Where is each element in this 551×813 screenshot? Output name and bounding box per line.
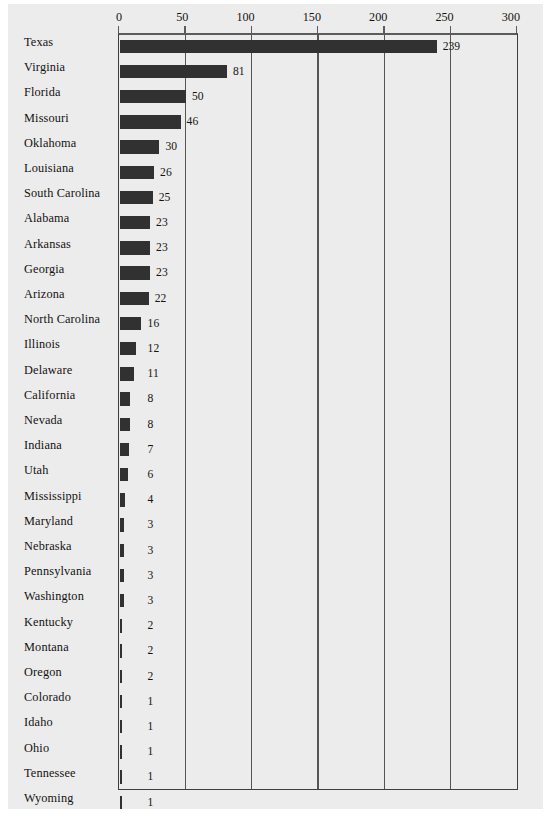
bar-row[interactable]: 6 xyxy=(120,462,518,487)
axis-tick-label: 200 xyxy=(369,10,389,25)
category-label: Alabama xyxy=(24,206,69,231)
category-label: Delaware xyxy=(24,358,72,383)
bar[interactable] xyxy=(120,518,124,531)
bar-row[interactable]: 16 xyxy=(120,311,518,336)
bar-row[interactable]: 26 xyxy=(120,160,518,185)
category-label: Maryland xyxy=(24,509,73,534)
bar-row[interactable]: 4 xyxy=(120,488,518,513)
bar-row[interactable]: 22 xyxy=(120,286,518,311)
bar-row[interactable]: 81 xyxy=(120,59,518,84)
bar-row[interactable]: 1 xyxy=(120,740,518,765)
category-label: Texas xyxy=(24,30,53,55)
bar-value-label: 16 xyxy=(148,316,160,332)
bar[interactable] xyxy=(120,745,122,758)
bar-value-label: 2 xyxy=(148,643,154,659)
bar-value-label: 26 xyxy=(160,165,172,181)
bar-row[interactable]: 1 xyxy=(120,765,518,790)
bar-row[interactable]: 7 xyxy=(120,437,518,462)
bar[interactable] xyxy=(120,216,151,229)
category-label: Virginia xyxy=(24,55,65,80)
bar[interactable] xyxy=(120,191,153,204)
bar[interactable] xyxy=(120,392,131,405)
bar-value-label: 12 xyxy=(148,341,160,357)
bar-row[interactable]: 3 xyxy=(120,588,518,613)
category-label: Utah xyxy=(24,458,49,483)
bar[interactable] xyxy=(120,770,122,783)
bar[interactable] xyxy=(120,266,151,279)
bar-value-label: 3 xyxy=(148,517,154,533)
bar-row[interactable]: 2 xyxy=(120,639,518,664)
bar[interactable] xyxy=(120,443,129,456)
category-label: Kentucky xyxy=(24,610,73,635)
axis-tick xyxy=(516,26,517,34)
bar-row[interactable]: 23 xyxy=(120,236,518,261)
axis-tick xyxy=(383,26,384,34)
bar[interactable] xyxy=(120,166,154,179)
bar[interactable] xyxy=(120,115,181,128)
bar[interactable] xyxy=(120,342,136,355)
bar-row[interactable]: 2 xyxy=(120,614,518,639)
axis-tick-label: 100 xyxy=(236,10,256,25)
bars-layer: 2398150463026252323232216121188764333322… xyxy=(120,34,518,790)
bar[interactable] xyxy=(120,65,227,78)
category-label: Louisiana xyxy=(24,156,74,181)
bar[interactable] xyxy=(120,40,437,53)
bar-row[interactable]: 3 xyxy=(120,513,518,538)
bar[interactable] xyxy=(120,720,122,733)
category-label: Ohio xyxy=(24,736,49,761)
category-label: Washington xyxy=(24,584,84,609)
bar[interactable] xyxy=(120,670,123,683)
bar-row[interactable]: 3 xyxy=(120,563,518,588)
category-label: Arkansas xyxy=(24,232,71,257)
axis-tick xyxy=(450,26,451,34)
bar-value-label: 3 xyxy=(148,543,154,559)
bar-row[interactable]: 1 xyxy=(120,790,518,813)
axis-tick-label: 50 xyxy=(176,10,190,25)
category-label: Mississippi xyxy=(24,484,82,509)
bar-row[interactable]: 11 xyxy=(120,362,518,387)
bar-value-label: 22 xyxy=(155,291,167,307)
bar[interactable] xyxy=(120,569,124,582)
category-label: Georgia xyxy=(24,257,64,282)
bar[interactable] xyxy=(120,317,141,330)
bar-row[interactable]: 23 xyxy=(120,261,518,286)
bar-row[interactable]: 3 xyxy=(120,538,518,563)
bar[interactable] xyxy=(120,292,149,305)
bar[interactable] xyxy=(120,493,125,506)
bar-value-label: 25 xyxy=(159,190,171,206)
bar[interactable] xyxy=(120,544,124,557)
axis-tick-label: 250 xyxy=(435,10,455,25)
bar-row[interactable]: 46 xyxy=(120,110,518,135)
category-label: Indiana xyxy=(24,433,62,458)
axis-tick-label: 150 xyxy=(303,10,323,25)
bar-row[interactable]: 8 xyxy=(120,387,518,412)
bar[interactable] xyxy=(120,140,160,153)
bar-row[interactable]: 8 xyxy=(120,412,518,437)
bar[interactable] xyxy=(120,594,124,607)
bar[interactable] xyxy=(120,796,122,809)
bar-row[interactable]: 1 xyxy=(120,689,518,714)
bar-row[interactable]: 239 xyxy=(120,34,518,59)
bar[interactable] xyxy=(120,90,186,103)
category-label: South Carolina xyxy=(24,181,100,206)
category-label: Nebraska xyxy=(24,534,72,559)
bar-row[interactable]: 12 xyxy=(120,336,518,361)
bar-row[interactable]: 30 xyxy=(120,135,518,160)
axis-tick xyxy=(184,26,185,34)
bar[interactable] xyxy=(120,644,123,657)
bar-row[interactable]: 2 xyxy=(120,664,518,689)
bar[interactable] xyxy=(120,619,123,632)
bar-row[interactable]: 1 xyxy=(120,714,518,739)
bar-row[interactable]: 50 xyxy=(120,84,518,109)
category-label: Florida xyxy=(24,80,61,105)
axis-tick xyxy=(317,26,318,34)
bar[interactable] xyxy=(120,367,135,380)
bar[interactable] xyxy=(120,468,128,481)
bar[interactable] xyxy=(120,241,151,254)
category-label: Wyoming xyxy=(24,786,74,811)
bar[interactable] xyxy=(120,418,131,431)
bar-row[interactable]: 23 xyxy=(120,210,518,235)
bar-row[interactable]: 25 xyxy=(120,185,518,210)
category-label: North Carolina xyxy=(24,307,100,332)
bar[interactable] xyxy=(120,695,122,708)
